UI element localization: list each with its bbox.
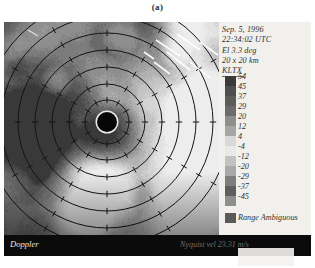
scan-date: Sep. 5, 1996 (222, 25, 310, 35)
colorbar-tick-label: 29 (238, 102, 308, 112)
colorbar-swatch (225, 176, 236, 186)
radar-display-panel[interactable] (4, 22, 219, 235)
colorbar-swatch (225, 116, 236, 126)
scan-artifact (238, 248, 294, 266)
colorbar-swatch (225, 196, 236, 206)
colorbar-swatch (225, 146, 236, 156)
domain-size: 20 x 20 km (222, 56, 310, 66)
elevation-angle: El 3.3 deg (222, 46, 310, 56)
colorbar-tick-label: -29 (238, 172, 308, 182)
velocity-colorbar (225, 76, 236, 206)
colorbar-swatch (225, 86, 236, 96)
colorbar-swatch (225, 156, 236, 166)
colorbar-tick-label: 54 (238, 72, 308, 82)
colorbar-swatch (225, 136, 236, 146)
colorbar-swatch (225, 166, 236, 176)
colorbar-tick-label: 37 (238, 92, 308, 102)
colorbar-tick-label: -20 (238, 162, 308, 172)
colorbar-tick-label: 20 (238, 112, 308, 122)
velocity-colorbar-labels: 5445372920124-4-12-20-29-37-45 (238, 72, 308, 202)
colorbar-tick-label: -4 (238, 142, 308, 152)
legend-header: Sep. 5, 1996 22:34:02 UTC El 3.3 deg 20 … (222, 25, 310, 77)
scan-time: 22:34:02 UTC (222, 35, 310, 45)
product-label: Doppler (10, 239, 39, 249)
colorbar-swatch (225, 76, 236, 86)
colorbar-tick-label: 12 (238, 122, 308, 132)
colorbar-swatch (225, 126, 236, 136)
colorbar-tick-label: 4 (238, 132, 308, 142)
colorbar-swatch (225, 106, 236, 116)
legend-panel: Sep. 5, 1996 22:34:02 UTC El 3.3 deg 20 … (219, 22, 311, 235)
range-ambiguous-legend: Range Ambiguous (225, 212, 311, 224)
radar-echo-canvas (4, 22, 219, 235)
radar-figure: Sep. 5, 1996 22:34:02 UTC El 3.3 deg 20 … (4, 22, 311, 256)
colorbar-tick-label: -12 (238, 152, 308, 162)
figure-caption: (a) (0, 2, 315, 12)
colorbar-tick-label: 45 (238, 82, 308, 92)
colorbar-tick-label: -45 (238, 192, 308, 202)
colorbar-tick-label: -37 (238, 182, 308, 192)
colorbar-swatch (225, 96, 236, 106)
range-ambiguous-swatch (225, 213, 236, 223)
range-ambiguous-label: Range Ambiguous (238, 212, 298, 223)
colorbar-swatch (225, 186, 236, 196)
